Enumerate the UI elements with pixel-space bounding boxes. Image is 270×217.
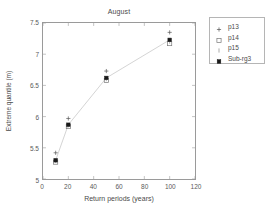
series-sub-rg3 — [54, 38, 172, 162]
x-tick-label: 100 — [158, 183, 182, 190]
y-axis-label-container: Extreme quantile (m) — [2, 22, 14, 180]
legend-box: p13p14p15Sub-rg3 — [209, 17, 265, 64]
series-p15 — [56, 40, 170, 163]
legend-label: p14 — [228, 34, 239, 41]
figure-canvas: August Extreme quantile (m) 55.566.577.5… — [0, 0, 270, 217]
y-tick-label: 6 — [19, 113, 39, 120]
legend-label: Sub-rg3 — [228, 55, 251, 62]
x-axis-tick-labels: 020406080100120 — [42, 183, 196, 195]
x-tick-label: 0 — [30, 183, 54, 190]
x-tick-label: 60 — [107, 183, 131, 190]
y-axis-label: Extreme quantile (m) — [5, 71, 12, 131]
x-tick-label: 80 — [133, 183, 157, 190]
data-point-sub-rg3 — [168, 38, 172, 42]
data-series-canvas — [43, 23, 195, 179]
legend-label: p13 — [228, 23, 239, 30]
legend-marker-sub-rg3-icon — [210, 53, 228, 64]
legend-item-p13[interactable]: p13 — [210, 21, 264, 32]
x-tick-label: 120 — [184, 183, 208, 190]
series-line-sub-rg3 — [56, 40, 170, 160]
legend-item-p15[interactable]: p15 — [210, 42, 264, 53]
legend-marker-p14-icon — [210, 32, 228, 43]
x-tick-label: 20 — [56, 183, 80, 190]
legend-item-sub-rg3[interactable]: Sub-rg3 — [210, 53, 264, 64]
y-tick-label: 7 — [19, 50, 39, 57]
y-tick-label: 6.5 — [19, 82, 39, 89]
data-point-p13 — [66, 116, 70, 120]
x-tick-label: 40 — [81, 183, 105, 190]
y-axis-tick-labels: 55.566.577.5 — [16, 22, 39, 180]
chart-title: August — [42, 8, 196, 15]
series-p14 — [54, 42, 172, 165]
legend-marker-p13-icon — [210, 21, 228, 32]
data-point-sub-rg3 — [67, 123, 71, 127]
y-tick-label: 5.5 — [19, 145, 39, 152]
data-point-p13 — [168, 30, 172, 34]
legend-item-p14[interactable]: p14 — [210, 32, 264, 43]
x-axis-label: Return periods (years) — [42, 195, 196, 202]
data-point-p13 — [54, 151, 58, 155]
data-point-sub-rg3 — [105, 76, 109, 80]
legend-label: p15 — [228, 44, 239, 51]
legend-glyph-sub-rg3 — [217, 59, 221, 63]
data-point-sub-rg3 — [54, 159, 58, 163]
y-tick-label: 7.5 — [19, 19, 39, 26]
data-point-p13 — [104, 69, 108, 73]
plot-area — [42, 22, 196, 180]
legend-marker-p15-icon — [210, 42, 228, 53]
